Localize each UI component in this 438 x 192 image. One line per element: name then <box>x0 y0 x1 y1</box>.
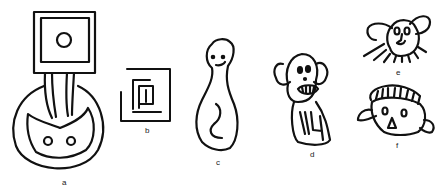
label-f: f <box>396 141 398 150</box>
glyph-a <box>9 12 105 178</box>
label-d: d <box>310 150 314 159</box>
label-e: e <box>396 68 400 77</box>
glyph-f <box>358 85 434 135</box>
label-c: c <box>216 158 220 167</box>
glyph-d <box>274 54 330 145</box>
label-a: a <box>62 178 66 187</box>
glyph-b <box>121 69 170 121</box>
label-b: b <box>145 126 149 135</box>
glyph-e <box>364 16 430 62</box>
glyph-c <box>196 39 237 150</box>
